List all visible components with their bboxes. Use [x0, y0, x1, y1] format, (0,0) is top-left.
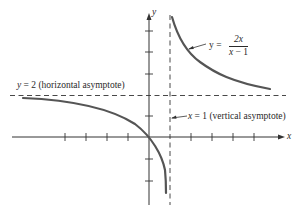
y-axis-arrow-icon: [147, 13, 152, 20]
curve-left-branch: [23, 98, 166, 193]
function-label-lhs: y =: [209, 41, 221, 51]
x-axis-label: x: [287, 132, 291, 142]
curve-right-branch: [172, 17, 270, 89]
x-axis-arrow-icon: [278, 135, 285, 140]
y-axis: [145, 13, 153, 205]
vertical-asymptote-label: x = 1 (vertical asymptote): [188, 112, 286, 122]
horizontal-asymptote-label-text: = 2 (horizontal asymptote): [21, 80, 125, 90]
y-axis-label: y: [152, 8, 156, 18]
function-label-numerator: 2x: [229, 35, 248, 47]
vertical-asymptote-label-pointer: [171, 116, 187, 119]
function-label-denominator: x − 1: [229, 47, 248, 58]
vertical-asymptote-label-text: = 1 (vertical asymptote): [192, 111, 285, 121]
function-label-pointer: [188, 44, 206, 49]
horizontal-asymptote-label: y = 2 (horizontal asymptote): [17, 81, 125, 91]
function-label-denominator-rest: − 1: [233, 47, 248, 57]
function-label-fraction: 2x x − 1: [229, 35, 248, 57]
function-graph: [0, 0, 303, 214]
